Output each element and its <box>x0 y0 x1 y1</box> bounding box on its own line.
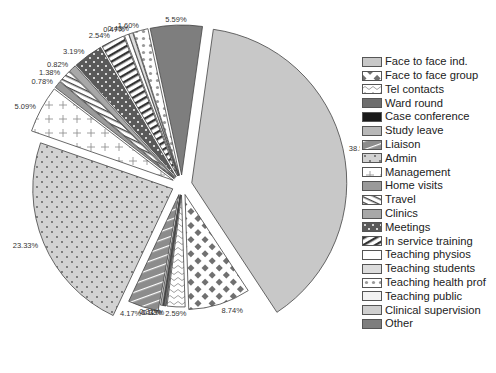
legend-item: Home visits <box>362 179 496 193</box>
legend: Face to face ind.Face to face groupTel c… <box>362 55 496 331</box>
legend-item: Meetings <box>362 221 496 235</box>
legend-label: Clinics <box>385 208 418 219</box>
legend-swatch <box>362 181 382 191</box>
legend-swatch <box>362 140 382 150</box>
legend-item: Ward round <box>362 96 496 110</box>
legend-label: Other <box>385 318 413 329</box>
legend-swatch <box>362 305 382 315</box>
legend-item: Clinical supervision <box>362 303 496 317</box>
legend-swatch <box>362 278 382 288</box>
legend-swatch <box>362 57 382 67</box>
slice-label: 5.59% <box>165 15 187 24</box>
legend-swatch <box>362 250 382 260</box>
legend-label: Face to face ind. <box>385 56 468 67</box>
slice-label: 8.74% <box>222 306 244 315</box>
legend-label: Travel <box>385 194 416 205</box>
legend-label: Ward round <box>385 98 443 109</box>
legend-label: Meetings <box>385 222 430 233</box>
slice-label: 3.19% <box>63 47 85 56</box>
legend-swatch <box>362 209 382 219</box>
legend-label: Management <box>385 167 450 178</box>
legend-swatch <box>362 236 382 246</box>
slice-label: 23.33% <box>13 241 39 250</box>
legend-label: Teaching physios <box>385 249 471 260</box>
legend-item: Liaison <box>362 138 496 152</box>
legend-swatch <box>362 71 382 81</box>
pie-chart: 38.52%8.74%2.59%0.33%0.12%0.31%4.17%23.3… <box>0 0 360 373</box>
legend-swatch <box>362 291 382 301</box>
legend-swatch <box>362 195 382 205</box>
legend-item: Travel <box>362 193 496 207</box>
legend-swatch <box>362 264 382 274</box>
legend-swatch <box>362 319 382 329</box>
legend-item: Management <box>362 165 496 179</box>
pie-slices <box>32 25 347 316</box>
slice-label: 4.17% <box>120 309 142 318</box>
legend-item: Case conference <box>362 110 496 124</box>
legend-label: Case conference <box>385 111 470 122</box>
slice-label: 2.59% <box>165 309 187 318</box>
slice-label: 0.82% <box>47 60 69 69</box>
legend-swatch <box>362 112 382 122</box>
legend-item: Face to face group <box>362 69 496 83</box>
legend-swatch <box>362 153 382 163</box>
legend-item: Face to face ind. <box>362 55 496 69</box>
legend-item: Clinics <box>362 207 496 221</box>
legend-label: Liaison <box>385 139 420 150</box>
legend-label: Study leave <box>385 125 443 136</box>
legend-label: In service training <box>385 236 473 247</box>
slice-label: 1.38% <box>39 68 61 77</box>
legend-item: Teaching students <box>362 262 496 276</box>
legend-label: Teaching students <box>385 263 475 274</box>
slice-label: 0.78% <box>32 77 54 86</box>
legend-label: Clinical supervision <box>385 305 481 316</box>
slice-label: 38.52% <box>349 144 360 153</box>
legend-label: Admin <box>385 153 417 164</box>
legend-swatch <box>362 222 382 232</box>
legend-item: Admin <box>362 152 496 166</box>
legend-item: Tel contacts <box>362 83 496 97</box>
legend-swatch <box>362 98 382 108</box>
legend-swatch <box>362 167 382 177</box>
legend-item: In service training <box>362 234 496 248</box>
legend-label: Tel contacts <box>385 84 444 95</box>
legend-label: Teaching health prof <box>385 277 486 288</box>
legend-item: Teaching health prof <box>362 276 496 290</box>
legend-item: Other <box>362 317 496 331</box>
legend-swatch <box>362 126 382 136</box>
legend-item: Study leave <box>362 124 496 138</box>
slice-label: 5.09% <box>15 102 37 111</box>
legend-label: Teaching public <box>385 291 462 302</box>
legend-item: Teaching public <box>362 290 496 304</box>
legend-item: Teaching physios <box>362 248 496 262</box>
legend-label: Home visits <box>385 180 443 191</box>
slice-label: 1.60% <box>118 21 140 30</box>
slice-label: 0.31% <box>139 307 161 316</box>
legend-swatch <box>362 84 382 94</box>
legend-label: Face to face group <box>385 70 478 81</box>
